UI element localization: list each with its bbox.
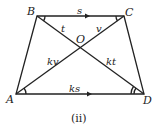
angle-mark-c — [116, 16, 118, 21]
vertex-label-c: C — [125, 6, 134, 19]
segment-label-do: kt — [106, 56, 117, 67]
angle-mark-d-1 — [134, 88, 136, 94]
angle-mark-b — [44, 16, 46, 21]
vertex-label-b: B — [26, 5, 35, 18]
trapezium-diagram: B C A D O s ks t v kv kt (ii) — [0, 0, 160, 133]
segment-label-bo: t — [61, 23, 66, 34]
vertex-label-d: D — [142, 94, 152, 107]
diagonal-bd — [37, 16, 144, 94]
figure-caption: (ii) — [71, 112, 87, 125]
segment-label-ad: ks — [69, 83, 80, 94]
segment-label-bc: s — [77, 5, 82, 16]
vertex-label-a: A — [5, 93, 14, 106]
angle-mark-a — [24, 88, 26, 94]
segment-label-ao: kv — [47, 56, 59, 67]
parallel-arrow-ad — [87, 92, 92, 97]
vertex-label-o: O — [76, 33, 85, 46]
angle-mark-d-2 — [131, 87, 134, 95]
parallel-arrow-bc — [85, 14, 90, 19]
segment-label-co: v — [96, 23, 102, 34]
